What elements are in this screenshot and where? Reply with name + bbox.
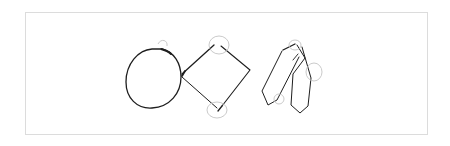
parallelogram-shape bbox=[262, 40, 322, 113]
tie-top-marker bbox=[289, 40, 301, 50]
circle-shape bbox=[126, 40, 181, 108]
sketch-layer bbox=[0, 0, 450, 146]
diamond-shape bbox=[182, 36, 250, 118]
diamond-top-marker bbox=[209, 36, 229, 54]
top-arc-marker bbox=[158, 40, 167, 46]
tie-right-marker bbox=[306, 63, 322, 81]
diamond-bottom-marker bbox=[207, 102, 227, 118]
